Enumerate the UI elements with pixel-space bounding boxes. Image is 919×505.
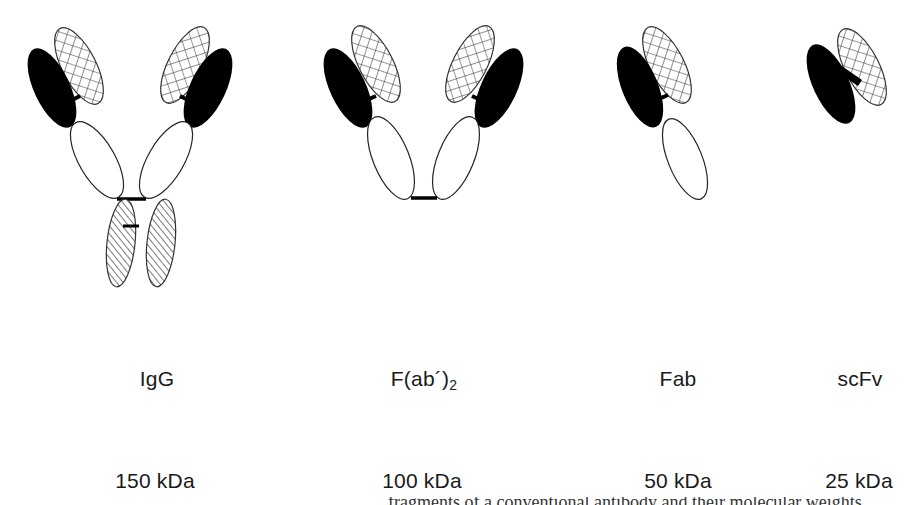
label-fab2: F(ab´)2 xyxy=(391,367,457,393)
label-scfv-text: scFv xyxy=(837,367,882,390)
scfv-structure xyxy=(797,22,897,131)
igg-constant-right xyxy=(129,114,203,206)
label-igg-text: IgG xyxy=(140,367,174,390)
mass-fab: 50 kDa xyxy=(644,469,712,493)
igg-fc-right xyxy=(142,198,179,288)
label-igg: IgG xyxy=(140,367,174,391)
mass-fab2: 100 kDa xyxy=(382,469,462,493)
fab2-structure xyxy=(314,19,534,206)
mass-scfv: 25 kDa xyxy=(825,469,893,493)
label-scfv: scFv xyxy=(837,367,882,391)
label-fab2-subscript: 2 xyxy=(449,377,457,393)
igg-structure xyxy=(18,20,243,288)
caption-fragment-text: …fragments of a conventional antibody an… xyxy=(370,497,919,505)
antibody-diagram xyxy=(0,0,919,505)
label-fab2-text: F(ab´) xyxy=(391,367,449,390)
label-fab-text: Fab xyxy=(660,367,697,390)
fab-structure xyxy=(607,20,717,205)
label-fab: Fab xyxy=(660,367,697,391)
mass-igg: 150 kDa xyxy=(115,469,195,493)
igg-fc-left xyxy=(102,198,139,288)
caption-fragment: …fragments of a conventional antibody an… xyxy=(370,497,919,505)
igg-constant-left xyxy=(60,114,134,206)
